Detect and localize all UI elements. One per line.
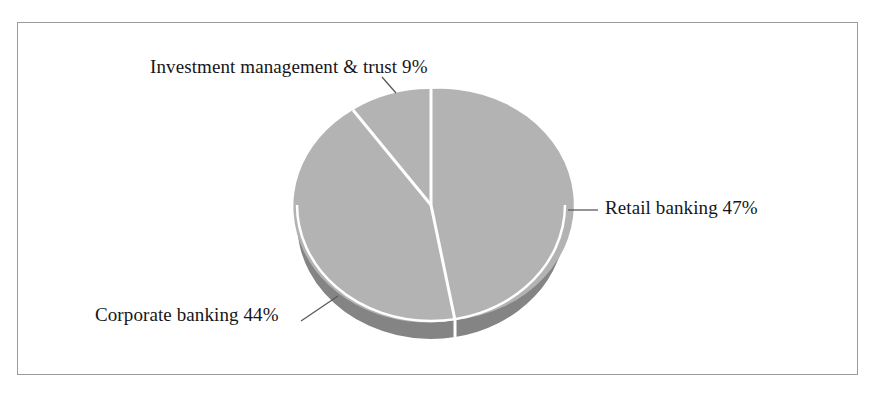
- pie-slice-retail-banking: [431, 89, 574, 320]
- slice-label-retail-banking: Retail banking 47%: [605, 198, 758, 219]
- pie-chart-figure: Investment management & trust 9% Retail …: [0, 0, 879, 399]
- leader-line-corporate: [301, 296, 338, 321]
- slice-label-corporate-banking: Corporate banking 44%: [95, 305, 279, 326]
- leader-line-investment: [382, 77, 396, 93]
- slice-label-investment-management: Investment management & trust 9%: [150, 57, 428, 78]
